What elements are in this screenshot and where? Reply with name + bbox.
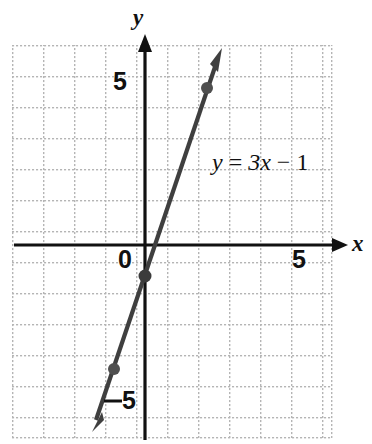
graph-figure: y x 5 0 5 5 y = 3x − 1 (0, 0, 372, 444)
grid-vertical-lines (12, 45, 332, 438)
y-axis-tick-label-negative-5: 5 (122, 388, 136, 413)
equation-slope-term: 3x (248, 149, 271, 175)
equation-minus: − (277, 149, 291, 175)
x-axis-tick-label-5: 5 (292, 247, 306, 272)
x-axis-label: x (352, 232, 364, 255)
equation-constant: 1 (296, 149, 308, 175)
grid-horizontal-lines (12, 45, 332, 438)
y-axis (138, 34, 152, 440)
equation-annotation: y = 3x − 1 (212, 150, 308, 174)
equation-equals: = (229, 149, 243, 175)
origin-label: 0 (118, 247, 132, 272)
y-axis-label: y (133, 6, 143, 29)
coordinate-plane-svg (0, 0, 372, 444)
equation-lhs: y (212, 149, 223, 175)
y-axis-tick-label-5: 5 (113, 69, 127, 94)
